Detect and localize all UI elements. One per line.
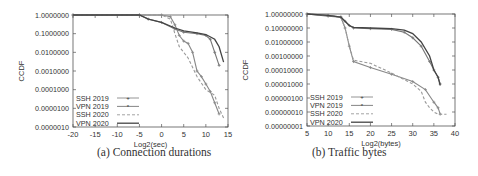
y-tick-label: 0.00000010 (265, 108, 303, 117)
x-tick-label: 5 (305, 129, 309, 138)
y-tick-label: 1.00000000 (265, 10, 303, 19)
y-tick-label: 0.0000010 (35, 123, 69, 132)
caption-a: (a) Connection durations (97, 146, 211, 158)
x-tick-label: 15 (345, 129, 353, 138)
x-tick-label: -5 (136, 130, 143, 139)
y-tick-label: 0.00010000 (265, 66, 303, 75)
chart-traffic-bytes: 1.000000000.100000000.010000000.00100000… (240, 0, 478, 176)
x-tick-label: -20 (68, 130, 79, 139)
plot-area-b: 1.000000000.100000000.010000000.00100000… (240, 0, 478, 150)
x-tick-label: -15 (90, 130, 101, 139)
x-tick-label: 35 (430, 129, 438, 138)
y-tick-label: 0.00000100 (265, 94, 303, 103)
legend: SSH 2019+VPN 2019*SSH 2020VPN 2020 (310, 93, 373, 127)
y-axis-label: CCDF (241, 59, 250, 80)
x-tick-label: 0 (159, 130, 163, 139)
x-tick-label: 5 (182, 130, 186, 139)
x-tick-label: 10 (324, 129, 332, 138)
y-tick-label: 0.10000000 (265, 24, 303, 33)
x-tick-label: 40 (451, 129, 459, 138)
y-tick-label: 0.0001000 (35, 85, 69, 94)
series-line (73, 15, 219, 65)
y-axis-label: CCDF (17, 60, 26, 81)
x-tick-label: -10 (112, 130, 123, 139)
y-tick-label: 0.0000100 (35, 104, 69, 113)
y-tick-label: 1.0000000 (35, 11, 69, 20)
svg-text:+: + (360, 94, 364, 100)
series-line (307, 14, 440, 84)
y-tick-label: 0.1000000 (35, 29, 69, 38)
caption-b: (b) Traffic bytes (312, 146, 387, 158)
plot-area-a: 1.00000000.10000000.01000000.00100000.00… (0, 0, 240, 150)
legend-label: VPN 2020 (310, 118, 343, 127)
x-tick-label: 30 (409, 129, 417, 138)
chart-connection-durations: 1.00000000.10000000.01000000.00100000.00… (0, 0, 240, 176)
y-tick-label: 0.00100000 (265, 52, 303, 61)
legend-label: VPN 2020 (76, 119, 109, 128)
x-tick-label: 10 (202, 130, 210, 139)
y-tick-label: 0.00001000 (265, 80, 303, 89)
y-tick-label: 0.01000000 (265, 38, 303, 47)
x-tick-label: 20 (366, 129, 374, 138)
y-tick-label: 0.00000001 (265, 122, 303, 131)
series-line (73, 15, 224, 62)
y-tick-label: 0.0010000 (35, 67, 69, 76)
x-tick-label: 25 (387, 129, 395, 138)
y-tick-label: 0.0100000 (35, 48, 69, 57)
x-tick-label: 15 (224, 130, 232, 139)
legend: SSH 2019+VPN 2019*SSH 2020VPN 2020 (76, 94, 139, 128)
svg-text:+: + (126, 95, 130, 101)
series-line (307, 14, 440, 85)
